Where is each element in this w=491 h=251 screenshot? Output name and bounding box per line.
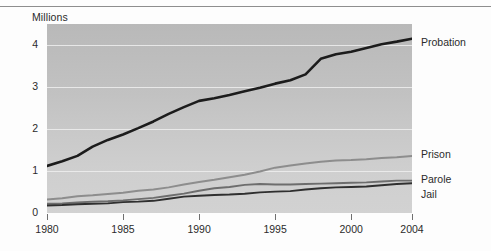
x-tick-mark [351,214,352,220]
series-label-probation: Probation [421,36,466,48]
x-tick-mark [123,214,124,220]
x-tick-label: 2000 [328,223,374,235]
x-tick-mark [275,214,276,220]
y-axis-unit-label: Millions [32,11,68,23]
x-tick-label: 1990 [176,223,222,235]
x-tick-label: 1980 [24,223,70,235]
x-tick-label: 2004 [389,223,435,235]
series-line-parole [47,181,412,204]
series-line-prison [47,156,412,200]
series-lines [47,24,412,213]
x-tick-mark [47,214,48,220]
y-tick-label: 2 [8,122,38,134]
top-divider-rule [0,6,491,7]
series-label-prison: Prison [421,148,451,160]
y-tick-label: 4 [8,38,38,50]
chart-figure: Millions 01234 198019851990199520002004 … [0,0,491,251]
series-label-jail: Jail [421,188,437,200]
x-tick-label: 1985 [100,223,146,235]
y-tick-label: 1 [8,164,38,176]
x-tick-mark [199,214,200,220]
x-tick-label: 1995 [252,223,298,235]
series-label-parole: Parole [421,173,451,185]
y-tick-label: 3 [8,80,38,92]
y-tick-label: 0 [8,206,38,218]
plot-area [47,24,412,213]
x-tick-mark [412,214,413,220]
series-line-probation [47,39,412,166]
